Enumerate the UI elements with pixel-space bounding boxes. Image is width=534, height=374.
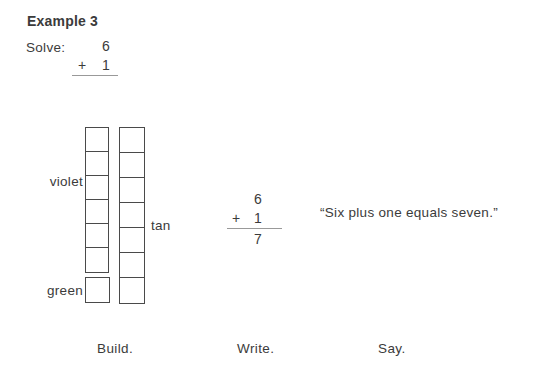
write-result: 7 [227, 229, 282, 249]
write-top-operand: 6 [227, 190, 282, 209]
unit-square [85, 277, 110, 303]
unit-square [119, 202, 145, 229]
green-block-label: green [30, 283, 83, 298]
tan-bar-label: tan [151, 218, 171, 233]
six-bar-tower [85, 127, 109, 273]
example-title: Example 3 [27, 13, 98, 29]
solve-plus-sign: + [72, 56, 86, 75]
unit-square [119, 177, 145, 204]
write-caption: Write. [237, 341, 274, 356]
green-unit-block [85, 277, 110, 303]
worksheet-page: Example 3 Solve: 6 + 1 violet green tan … [0, 0, 534, 374]
write-plus-sign: + [227, 209, 240, 228]
solve-bottom-operand: 1 [102, 56, 118, 75]
solve-label: Solve: [26, 40, 65, 55]
build-caption: Build. [97, 341, 133, 356]
say-caption: Say. [378, 341, 406, 356]
unit-square [119, 277, 145, 304]
unit-square [119, 127, 145, 154]
unit-square [85, 151, 109, 177]
unit-square [85, 175, 109, 201]
write-problem: 6 + 1 7 [227, 190, 282, 249]
violet-bar-label: violet [30, 174, 83, 189]
write-bottom-operand: 1 [254, 209, 282, 228]
unit-square [85, 199, 109, 225]
unit-square [119, 227, 145, 254]
seven-bar-tower [119, 127, 145, 304]
solve-problem: 6 + 1 [72, 37, 118, 76]
solve-operator-row: + 1 [72, 56, 118, 76]
write-operator-row: + 1 [227, 209, 282, 229]
unit-square [119, 252, 145, 279]
unit-square [85, 247, 109, 273]
solve-top-operand: 6 [72, 37, 118, 56]
unit-square [85, 223, 109, 249]
unit-square [119, 152, 145, 179]
unit-square [85, 127, 109, 153]
say-quote: “Six plus one equals seven.” [320, 205, 498, 220]
